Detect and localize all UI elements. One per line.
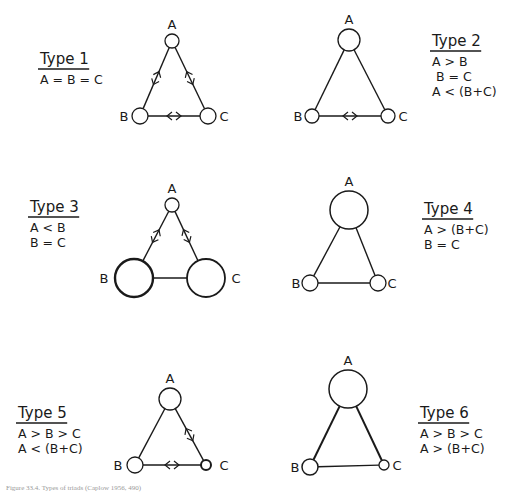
edge-AB (314, 406, 340, 460)
relation-text: A > B (432, 54, 468, 69)
type-title: Type 4 (423, 200, 473, 218)
node-label-a: A (345, 174, 354, 189)
triad-types-diagram: ABCType 1A = B = CABCType 2A > BB = CA <… (0, 0, 520, 496)
node-c (381, 109, 395, 123)
node-label-c: C (392, 458, 401, 473)
node-a (338, 29, 360, 51)
edge-AC (356, 228, 375, 276)
relation-text: A = B = C (40, 72, 103, 87)
relation-text: A > (B+C) (424, 222, 489, 237)
edge-AC (354, 50, 385, 110)
edge-AB (315, 50, 344, 110)
node-label-a: A (166, 371, 175, 386)
type-title: Type 2 (431, 32, 481, 50)
panel-type5: ABCType 5A > B > CA < (B+C) (16, 371, 229, 473)
edge-AC (175, 409, 203, 461)
node-label-b: B (292, 276, 301, 291)
node-label-a: A (345, 12, 354, 27)
node-b (302, 275, 318, 291)
node-c (200, 108, 216, 124)
node-label-c: C (387, 276, 396, 291)
node-label-b: B (120, 109, 129, 124)
node-label-b: B (291, 460, 300, 475)
panel-type4: ABCType 4A > (B+C)B = C (292, 174, 489, 291)
panel-type6: ABCType 6A > B > CA > (B+C) (291, 353, 485, 475)
node-c (187, 259, 225, 297)
node-b (127, 457, 143, 473)
node-a (165, 198, 179, 212)
node-b (302, 459, 318, 475)
edge-AC (356, 406, 382, 460)
relation-text: B = C (30, 235, 66, 250)
edge-AB (143, 211, 169, 261)
node-label-a: A (168, 17, 177, 32)
relation-text: B = C (436, 69, 472, 84)
node-a (330, 191, 368, 229)
node-label-b: B (294, 109, 303, 124)
node-a (329, 370, 367, 408)
edge-AB (314, 227, 340, 276)
type-title: Type 1 (39, 50, 89, 68)
edge-AC (175, 47, 205, 108)
node-a (165, 34, 179, 48)
type-title: Type 5 (17, 404, 67, 422)
relation-text: A > B > C (420, 426, 483, 441)
node-b (132, 108, 148, 124)
node-a (159, 388, 181, 410)
edge-BC (318, 465, 379, 467)
node-c (201, 460, 211, 470)
relation-text: A > B > C (18, 426, 81, 441)
relation-text: A < (B+C) (18, 441, 83, 456)
node-c (370, 275, 386, 291)
panel-type1: ABCType 1A = B = C (38, 17, 229, 124)
node-c (379, 460, 389, 470)
node-label-c: C (219, 458, 228, 473)
node-label-c: C (231, 271, 240, 286)
node-label-c: C (398, 109, 407, 124)
edge-AC (175, 211, 198, 260)
node-label-a: A (344, 353, 353, 368)
relation-text: B = C (424, 237, 460, 252)
edge-AB (143, 47, 169, 108)
panel-type3: ABCType 3A < BB = C (28, 181, 241, 297)
node-label-c: C (219, 109, 228, 124)
panel-type2: ABCType 2A > BB = CA < (B+C) (294, 12, 497, 124)
relation-text: A < B (30, 220, 66, 235)
relation-text: A > (B+C) (420, 441, 485, 456)
node-label-a: A (168, 181, 177, 196)
type-title: Type 6 (419, 404, 469, 422)
node-label-b: B (114, 458, 123, 473)
edge-AB (139, 409, 165, 458)
node-label-b: B (100, 271, 109, 286)
figure-caption: Figure 33.4. Types of triads (Caplow 195… (6, 484, 141, 492)
node-b (115, 259, 153, 297)
type-title: Type 3 (29, 198, 79, 216)
relation-text: A < (B+C) (432, 84, 497, 99)
node-b (305, 109, 319, 123)
